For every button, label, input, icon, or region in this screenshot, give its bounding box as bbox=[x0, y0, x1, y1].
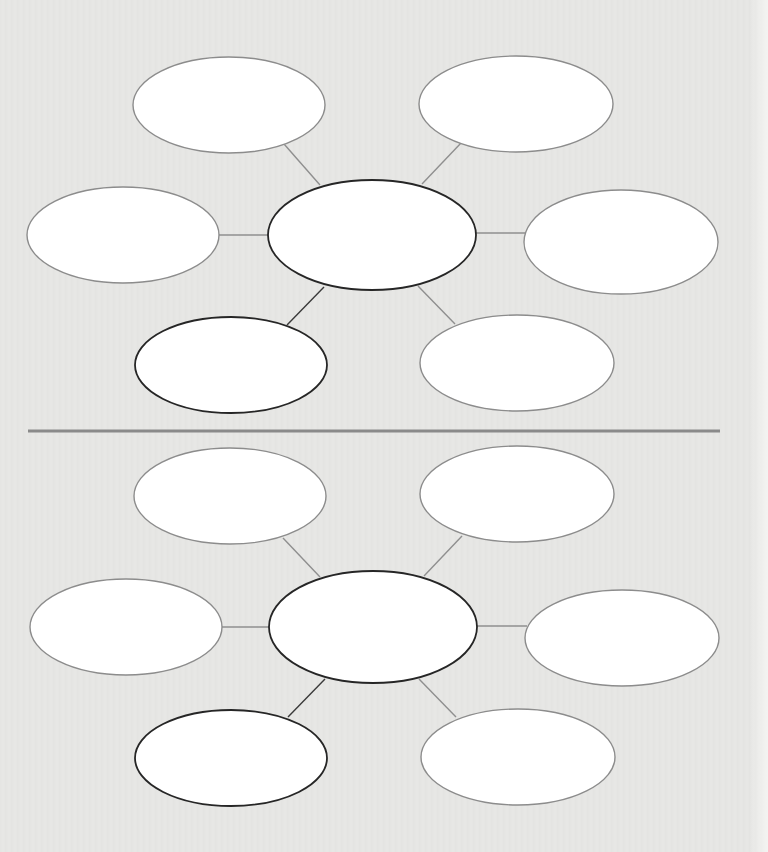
bubble-bottom-left[interactable] bbox=[135, 317, 327, 413]
bubble-bottom-right[interactable] bbox=[421, 709, 615, 805]
bubble-bottom-left[interactable] bbox=[135, 710, 327, 806]
connector-line-top-left bbox=[283, 538, 320, 577]
bubble-top-right[interactable] bbox=[420, 446, 614, 542]
connector-line-bottom-right bbox=[419, 679, 456, 717]
bubble-right[interactable] bbox=[525, 590, 719, 686]
bubble-right[interactable] bbox=[524, 190, 718, 294]
bottom-bubble-map bbox=[30, 446, 719, 806]
connector-line-top-right bbox=[424, 536, 462, 576]
bubble-top-left[interactable] bbox=[134, 448, 326, 544]
top-bubble-map bbox=[27, 56, 718, 413]
center-bubble[interactable] bbox=[269, 571, 477, 683]
bubble-left[interactable] bbox=[30, 579, 222, 675]
bubble-top-right[interactable] bbox=[419, 56, 613, 152]
bubble-top-left[interactable] bbox=[133, 57, 325, 153]
bubble-bottom-right[interactable] bbox=[420, 315, 614, 411]
bubble-left[interactable] bbox=[27, 187, 219, 283]
connector-line-top-left bbox=[284, 144, 320, 185]
bubble-map-diagram bbox=[0, 0, 768, 852]
worksheet-page bbox=[0, 0, 768, 852]
connector-line-top-right bbox=[422, 143, 461, 184]
connector-line-bottom-left bbox=[288, 679, 325, 717]
connector-line-bottom-right bbox=[418, 286, 455, 324]
center-bubble[interactable] bbox=[268, 180, 476, 290]
connector-line-bottom-left bbox=[287, 287, 324, 325]
